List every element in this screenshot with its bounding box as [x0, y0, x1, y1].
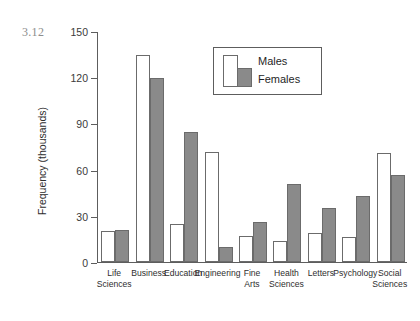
- x-axis-label-line: Social: [363, 268, 417, 279]
- bar-males: [239, 236, 253, 262]
- x-axis-labels: LifeSciencesBusinessEducationEngineering…: [97, 268, 407, 312]
- bar-males: [342, 237, 356, 262]
- y-axis-title: Frequency (thousands): [36, 107, 48, 215]
- bar-females: [115, 230, 129, 262]
- bar-females: [287, 184, 301, 262]
- bar-females: [219, 247, 233, 262]
- figure-number-label: 3.12: [22, 25, 44, 40]
- legend-swatches: [223, 55, 251, 87]
- x-axis-label-line: Sciences: [259, 279, 313, 290]
- y-tick-label: 30: [76, 211, 88, 223]
- x-axis-label: SocialSciences: [363, 268, 417, 289]
- bar-males: [101, 231, 115, 262]
- bar-males: [377, 153, 391, 262]
- y-tick-mark: [91, 263, 97, 264]
- legend-label-males: Males: [258, 55, 287, 67]
- x-axis-label-line: Sciences: [87, 279, 141, 290]
- bar-group: [136, 32, 164, 262]
- bar-group: [101, 32, 129, 262]
- bar-males: [273, 241, 287, 262]
- legend-label-females: Females: [258, 73, 300, 85]
- bar-males: [136, 55, 150, 262]
- y-tick-label: 90: [76, 118, 88, 130]
- figure-container: 3.12 Frequency (thousands) 0306090120150…: [0, 0, 420, 321]
- bar-females: [184, 132, 198, 262]
- y-tick-mark: [91, 32, 97, 33]
- legend-swatch-males: [223, 55, 238, 87]
- bar-males: [205, 152, 219, 262]
- bar-females: [322, 208, 336, 262]
- bar-females: [356, 196, 370, 262]
- bar-females: [253, 222, 267, 262]
- y-tick-mark: [91, 171, 97, 172]
- y-tick-mark: [91, 124, 97, 125]
- y-tick-label: 120: [70, 72, 88, 84]
- bar-males: [170, 224, 184, 262]
- y-tick-mark: [91, 217, 97, 218]
- bar-males: [308, 233, 322, 262]
- legend-swatch-females: [237, 68, 252, 87]
- y-tick-label: 150: [70, 26, 88, 38]
- bar-females: [391, 175, 405, 262]
- x-axis-line: [97, 262, 407, 263]
- bar-females: [150, 78, 164, 262]
- bar-group: [342, 32, 370, 262]
- legend: Males Females: [213, 47, 322, 95]
- y-tick-mark: [91, 78, 97, 79]
- bar-group: [377, 32, 405, 262]
- x-axis-label-line: Sciences: [363, 279, 417, 290]
- bar-group: [170, 32, 198, 262]
- y-tick-label: 60: [76, 165, 88, 177]
